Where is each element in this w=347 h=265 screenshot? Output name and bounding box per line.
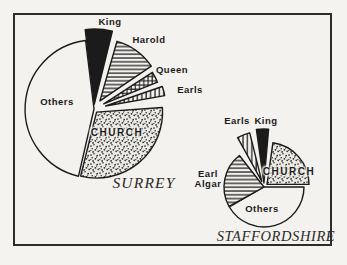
surrey-king-label: King bbox=[98, 17, 121, 27]
figure: KingHaroldQueenEarlsOthersCHURCHSURREYEa… bbox=[0, 0, 347, 265]
staffordshire-church-label: CHURCH bbox=[263, 167, 315, 178]
surrey-church-label: CHURCH bbox=[91, 128, 143, 139]
surrey-others-label: Others bbox=[40, 97, 74, 107]
staffordshire-others-label: Others bbox=[245, 204, 279, 214]
staffordshire-earl-algar-label: Earl Algar bbox=[195, 169, 222, 189]
surrey-title: SURREY bbox=[112, 175, 175, 191]
surrey-earls-label: Earls bbox=[177, 85, 203, 95]
staffordshire-earls-label: Earls bbox=[224, 116, 250, 126]
surrey-queen-label: Queen bbox=[156, 65, 188, 75]
staffordshire-king-label: King bbox=[254, 116, 277, 126]
staffordshire-title: STAFFORDSHIRE bbox=[217, 229, 336, 244]
chart-labels-layer: KingHaroldQueenEarlsOthersCHURCHSURREYEa… bbox=[0, 0, 347, 265]
surrey-harold-label: Harold bbox=[132, 35, 165, 45]
